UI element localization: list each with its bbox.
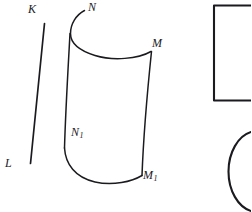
label-m1-text: M — [143, 168, 153, 182]
figure-canvas: K N M N1 L M1 — [0, 0, 251, 212]
surface-right-edge — [142, 52, 152, 176]
segment-kl — [31, 24, 45, 164]
surface-bottom-arc — [65, 148, 143, 184]
surface-top-arc — [71, 11, 152, 59]
label-m-text: M — [152, 36, 162, 50]
label-n1: N1 — [71, 126, 84, 138]
label-n1-subscript: 1 — [79, 131, 84, 140]
label-n-text: N — [88, 0, 96, 14]
label-m: M — [152, 37, 162, 49]
surface-left-edge — [65, 34, 71, 149]
rectangle-partial — [214, 6, 251, 101]
label-l: L — [5, 157, 12, 169]
label-n: N — [88, 1, 96, 13]
circle-partial — [229, 132, 252, 211]
label-n1-text: N — [71, 125, 79, 139]
label-l-text: L — [5, 156, 12, 170]
label-m1-subscript: 1 — [153, 174, 158, 183]
figure-drawing — [0, 0, 251, 212]
label-k-text: K — [28, 2, 36, 16]
label-m1: M1 — [143, 169, 158, 181]
label-k: K — [28, 3, 36, 15]
